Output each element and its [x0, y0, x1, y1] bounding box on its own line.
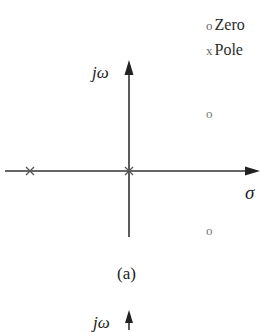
legend-zero-label: Zero [215, 16, 245, 33]
real-axis-arrow-icon [245, 167, 260, 176]
figure-caption: (a) [117, 265, 136, 282]
zero-upper-icon: o [206, 107, 213, 120]
real-axis-label: σ [245, 183, 254, 202]
legend-pole-label: Pole [215, 41, 243, 58]
zero-lower-icon: o [206, 224, 213, 237]
next-imaginary-axis-label: jω [93, 314, 110, 331]
legend-pole: xPole [206, 42, 243, 58]
pole-marker-icon: x [206, 43, 213, 58]
zero-marker-icon: o [206, 18, 213, 33]
next-imaginary-axis-arrow-icon [125, 310, 133, 323]
legend-zero: oZero [206, 17, 245, 33]
imaginary-axis-arrow-icon [125, 60, 134, 75]
imaginary-axis-label: jω [92, 64, 109, 81]
